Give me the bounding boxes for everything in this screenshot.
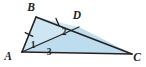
figure-canvas: A B C D 1 2 3 (0, 0, 146, 67)
vertex-label-C: C (133, 51, 141, 63)
vertex-label-D: D (72, 9, 82, 21)
vertex-label-A: A (3, 50, 12, 62)
angle-label-2: 2 (62, 27, 67, 37)
angle-label-3: 3 (47, 47, 52, 57)
vertex-label-B: B (26, 1, 35, 13)
geometry-figure: A B C D 1 2 3 (0, 0, 146, 67)
angle-label-1: 1 (31, 40, 36, 50)
